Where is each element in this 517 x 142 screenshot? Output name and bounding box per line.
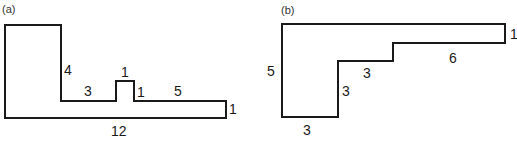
diagram-canvas: (a) 4 3 1 1 5 1 12 (b) 5 3 3 3 6 1 [0,0,517,142]
dim-a-bump-height: 1 [137,84,145,100]
shape-b-outline [282,24,505,117]
dim-a-right-height: 1 [229,101,237,117]
dim-a-bump-width: 1 [121,64,129,80]
dim-b-left-height: 5 [267,63,275,79]
figure-a: (a) 4 3 1 1 5 1 12 [2,3,237,139]
dim-a-left-step-height: 4 [64,62,72,78]
dim-a-bottom-width: 12 [111,123,127,139]
panel-label-a: (a) [2,3,15,15]
dim-b-first-riser: 3 [342,83,350,99]
dim-b-right-height: 1 [510,26,517,42]
dim-a-lower-ledge-right: 5 [174,83,182,99]
dim-a-lower-ledge-left: 3 [84,83,92,99]
dim-b-middle-tread: 3 [363,65,371,81]
dim-b-upper-tread: 6 [449,50,457,66]
dim-b-bottom-width: 3 [303,122,311,138]
panel-label-b: (b) [281,4,294,16]
shape-a-outline [5,25,226,118]
figure-b: (b) 5 3 3 3 6 1 [267,4,517,138]
